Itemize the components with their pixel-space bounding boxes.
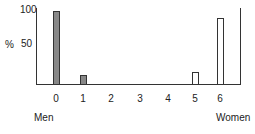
x-tick-1: 1	[78, 94, 88, 104]
women-label: Women	[216, 113, 250, 123]
x-tick-4: 4	[163, 94, 173, 104]
x-axis-line	[36, 84, 241, 85]
x-tick-5: 5	[190, 94, 200, 104]
x-tick-6: 6	[215, 94, 225, 104]
y-axis-label: %	[5, 40, 14, 50]
x-tick-3: 3	[135, 94, 145, 104]
bar-men-0	[53, 11, 60, 84]
bar-women-6	[217, 18, 224, 84]
x-tick-0: 0	[51, 94, 61, 104]
bar-chart: % 100 50 0 1 2 3 4 5 6 Men Women	[0, 0, 255, 134]
bar-men-1	[80, 75, 87, 84]
y-axis-line	[36, 8, 37, 85]
bar-women-5	[192, 72, 199, 84]
right-axis-line	[240, 8, 241, 85]
x-tick-2: 2	[106, 94, 116, 104]
men-label: Men	[34, 113, 53, 123]
y-tick-100: 100	[20, 5, 37, 15]
y-tick-50: 50	[21, 39, 32, 49]
